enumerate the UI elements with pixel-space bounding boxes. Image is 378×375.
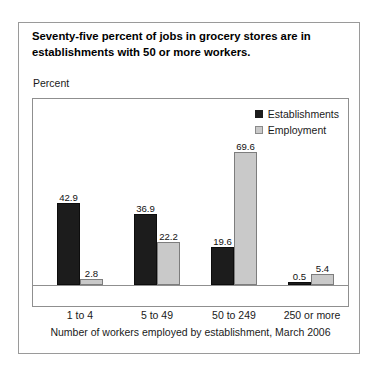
x-tick-label-4: 250 or more [284, 309, 341, 321]
bar-employment-1-to-4: 2.8 [80, 279, 103, 285]
bar-value-employment-50-to-249: 69.6 [236, 141, 255, 152]
bar-value-employment-250-or-more: 5.4 [316, 263, 329, 274]
bar-establishments-1-to-4: 42.9 [57, 203, 80, 285]
bar-establishments-50-to-249: 19.6 [211, 247, 234, 285]
x-tick-label-1: 1 to 4 [67, 309, 93, 321]
bar-value-employment-1-to-4: 2.8 [85, 268, 98, 279]
plot-inner: Establishments Employment 42.9 2.8 [33, 99, 348, 306]
x-axis-tick-labels: 1 to 4 5 to 49 50 to 249 250 or more [32, 309, 349, 325]
chart-card: Seventy-five percent of jobs in grocery … [18, 22, 360, 354]
legend-item-establishments: Establishments [255, 107, 339, 121]
x-tick-label-2: 5 to 49 [141, 309, 173, 321]
bar-value-employment-5-to-49: 22.2 [159, 231, 178, 242]
bar-establishments-250-or-more: 0.5 [288, 282, 311, 285]
figure: Seventy-five percent of jobs in grocery … [0, 0, 378, 375]
legend-swatch-employment [255, 126, 263, 134]
y-axis-label: Percent [33, 77, 69, 89]
legend: Establishments Employment [255, 107, 339, 137]
x-axis-label: Number of workers employed by establishm… [32, 326, 349, 338]
x-axis-baseline [33, 285, 348, 286]
bar-value-establishments-50-to-249: 19.6 [213, 236, 232, 247]
legend-item-employment: Employment [255, 123, 339, 137]
legend-label-employment: Employment [268, 124, 326, 136]
legend-swatch-establishments [255, 110, 263, 118]
chart-headline-line-1: Seventy-five percent of jobs in grocery … [32, 29, 346, 45]
bar-value-establishments-5-to-49: 36.9 [136, 203, 155, 214]
bar-value-establishments-1-to-4: 42.9 [59, 192, 78, 203]
bar-establishments-5-to-49: 36.9 [134, 214, 157, 285]
bar-employment-50-to-249: 69.6 [234, 152, 257, 285]
legend-label-establishments: Establishments [268, 108, 339, 120]
bar-employment-5-to-49: 22.2 [157, 242, 180, 285]
plot-area: Establishments Employment 42.9 2.8 [32, 98, 349, 307]
bar-value-establishments-250-or-more: 0.5 [293, 271, 306, 282]
chart-headline-line-2: establishments with 50 or more workers. [32, 45, 346, 61]
x-tick-label-3: 50 to 249 [212, 309, 256, 321]
chart-headline: Seventy-five percent of jobs in grocery … [32, 29, 346, 60]
bar-employment-250-or-more: 5.4 [311, 274, 334, 285]
